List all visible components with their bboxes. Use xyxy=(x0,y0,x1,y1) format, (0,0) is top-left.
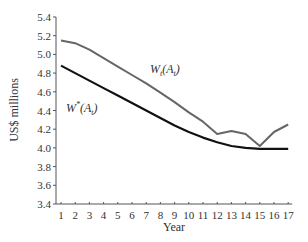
y-tick-label: 3.4 xyxy=(37,198,51,210)
y-axis-title: US$ millions xyxy=(7,78,21,142)
y-tick-label: 4.8 xyxy=(37,67,51,79)
y-tick-label: 3.6 xyxy=(37,179,51,191)
x-tick-label: 14 xyxy=(240,209,252,221)
series-label-wstar: W*(At) xyxy=(66,100,98,117)
y-axis: 3.43.63.84.04.24.44.64.85.05.25.4 xyxy=(37,11,56,210)
y-tick-label: 5.2 xyxy=(37,30,51,42)
y-tick-label: 4.2 xyxy=(37,123,51,135)
series-lines xyxy=(61,40,288,148)
y-tick-label: 5.4 xyxy=(37,11,51,23)
x-tick-label: 2 xyxy=(72,209,78,221)
y-tick-label: 4.6 xyxy=(37,86,51,98)
x-tick-label: 15 xyxy=(254,209,266,221)
y-tick-label: 4.4 xyxy=(37,105,51,117)
series-label-wt: Wt(At) xyxy=(150,62,180,78)
x-tick-label: 11 xyxy=(198,209,209,221)
x-tick-label: 5 xyxy=(115,209,121,221)
x-axis: 1234567891011121314151617 xyxy=(56,202,294,221)
x-tick-label: 1 xyxy=(58,209,64,221)
x-tick-label: 17 xyxy=(283,209,295,221)
x-axis-title: Year xyxy=(163,220,185,234)
x-tick-label: 12 xyxy=(212,209,223,221)
x-tick-label: 4 xyxy=(101,209,107,221)
line-chart: 3.43.63.84.04.24.44.64.85.05.25.4 123456… xyxy=(0,0,308,242)
series-line-0 xyxy=(61,40,288,146)
x-tick-label: 6 xyxy=(129,209,135,221)
x-tick-label: 7 xyxy=(143,209,149,221)
x-tick-label: 13 xyxy=(226,209,238,221)
y-tick-label: 3.8 xyxy=(37,161,51,173)
x-tick-label: 16 xyxy=(269,209,281,221)
x-tick-label: 3 xyxy=(87,209,93,221)
y-tick-label: 5.0 xyxy=(37,48,51,60)
y-tick-label: 4.0 xyxy=(37,142,51,154)
